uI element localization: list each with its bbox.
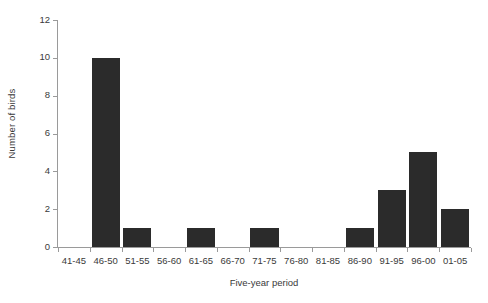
bar xyxy=(441,209,469,247)
y-tick-label: 12 xyxy=(28,15,50,25)
x-tick-mark xyxy=(58,248,59,252)
x-tick-mark xyxy=(122,248,123,252)
y-tick-label: 6 xyxy=(28,128,50,138)
y-axis-title-text: Number of birds xyxy=(7,89,18,159)
y-tick-label: 10 xyxy=(28,52,50,62)
x-tick-mark xyxy=(344,248,345,252)
x-axis-title: Five-year period xyxy=(57,277,471,288)
bar xyxy=(250,228,278,247)
x-tick-mark xyxy=(280,248,281,252)
x-tick-label: 51-55 xyxy=(122,255,154,266)
bar xyxy=(187,228,215,247)
bar xyxy=(123,228,151,247)
x-tick-label: 56-60 xyxy=(153,255,185,266)
x-tick-mark xyxy=(407,248,408,252)
x-tick-label: 46-50 xyxy=(90,255,122,266)
bar xyxy=(346,228,374,247)
x-tick-label: 66-70 xyxy=(217,255,249,266)
x-tick-mark xyxy=(185,248,186,252)
bar xyxy=(92,58,120,247)
x-tick-label: 61-65 xyxy=(185,255,217,266)
x-tick-mark xyxy=(249,248,250,252)
x-tick-mark xyxy=(217,248,218,252)
x-tick-label: 01-05 xyxy=(439,255,471,266)
x-tick-label: 81-85 xyxy=(312,255,344,266)
x-tick-label: 86-90 xyxy=(344,255,376,266)
bar-chart-figure: Number of birds 024681012 41-4546-5051-5… xyxy=(0,0,488,303)
y-axis-title: Number of birds xyxy=(0,0,24,247)
y-tick-label: 2 xyxy=(28,204,50,214)
x-tick-label: 96-00 xyxy=(407,255,439,266)
x-tick-mark xyxy=(439,248,440,252)
bar xyxy=(409,152,437,247)
y-tick-label: 4 xyxy=(28,166,50,176)
bar xyxy=(378,190,406,247)
x-tick-label: 41-45 xyxy=(58,255,90,266)
y-tick-label: 0 xyxy=(28,242,50,252)
x-tick-mark xyxy=(312,248,313,252)
y-tick-label: 8 xyxy=(28,90,50,100)
plot-area xyxy=(58,20,471,247)
x-axis-title-text: Five-year period xyxy=(230,277,299,288)
x-tick-label: 91-95 xyxy=(376,255,408,266)
x-tick-label: 71-75 xyxy=(249,255,281,266)
x-tick-mark xyxy=(90,248,91,252)
x-tick-label: 76-80 xyxy=(280,255,312,266)
x-tick-mark xyxy=(153,248,154,252)
x-tick-mark xyxy=(471,248,472,252)
x-axis-line xyxy=(57,247,471,248)
x-tick-mark xyxy=(376,248,377,252)
